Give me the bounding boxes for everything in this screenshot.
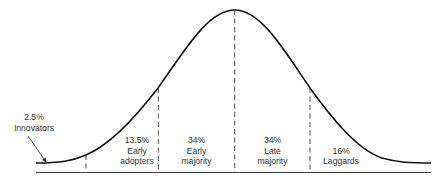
innovators-arrow [28, 136, 46, 162]
innovators-label: Innovators [14, 123, 54, 133]
laggards-percent: 16% [332, 146, 350, 156]
laggards-label: Laggards [323, 156, 359, 166]
early-majority-label-1: Early [187, 146, 207, 156]
segment-early-majority: 34% Early majority [181, 135, 212, 166]
segment-early-adopters: 13.5% Early adopters [120, 135, 153, 166]
late-majority-percent: 34% [264, 135, 282, 145]
segment-innovators: 2.5% Innovators [14, 112, 54, 163]
early-adopters-label-1: Early [127, 146, 147, 156]
early-majority-percent: 34% [188, 135, 206, 145]
early-adopters-percent: 13.5% [125, 135, 150, 145]
segment-laggards: 16% Laggards [323, 146, 359, 167]
bell-curve [36, 10, 431, 163]
late-majority-label-1: Late [264, 146, 281, 156]
segment-late-majority: 34% Late majority [257, 135, 288, 166]
early-adopters-label-2: adopters [120, 156, 153, 166]
late-majority-label-2: majority [257, 156, 288, 166]
early-majority-label-2: majority [181, 156, 212, 166]
innovators-percent: 2.5% [24, 112, 44, 122]
diffusion-of-innovation-diagram: 2.5% Innovators 13.5% Early adopters 34%… [0, 0, 443, 184]
